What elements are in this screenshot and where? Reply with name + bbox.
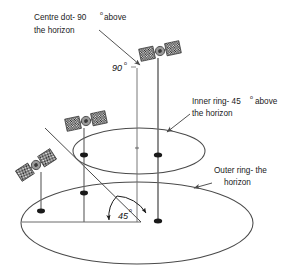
- marker-left-outer: [37, 209, 45, 214]
- centre-dot-zenith: [135, 147, 139, 150]
- marker-mid-outer: [80, 191, 88, 196]
- label-90-degree-symbol: o: [124, 60, 127, 66]
- annotation-inner-ring-line2: the horizon: [192, 109, 233, 118]
- label-45-degrees: 45: [118, 211, 129, 221]
- annotation-centre-dot-tail: above: [104, 13, 127, 22]
- marker-right-inner: [154, 153, 162, 158]
- label-45-degree-symbol: o: [129, 207, 132, 213]
- annotation-inner-ring-tail: above: [255, 97, 278, 106]
- annotation-centre-dot-line1: Centre dot- 90: [34, 13, 87, 22]
- annotation-centre-dot-line2: the horizon: [34, 26, 75, 35]
- annotation-inner-ring-degree: o: [250, 94, 253, 100]
- marker-mid-inner: [80, 153, 88, 158]
- diagram-root: 90 o 45 o Centre dot- 90 o above the hor…: [0, 0, 300, 278]
- annotation-centre-dot-degree: o: [100, 10, 103, 16]
- canvas-background: [0, 0, 300, 278]
- annotation-outer-ring-line1: Outer ring- the: [214, 166, 267, 175]
- label-90-degrees: 90: [112, 63, 122, 73]
- sky-plot-diagram: 90 o 45 o Centre dot- 90 o above the hor…: [0, 0, 300, 278]
- annotation-outer-ring-line2: horizon: [224, 178, 251, 187]
- annotation-inner-ring-line1: Inner ring- 45: [192, 97, 241, 106]
- marker-right-outer: [154, 219, 162, 224]
